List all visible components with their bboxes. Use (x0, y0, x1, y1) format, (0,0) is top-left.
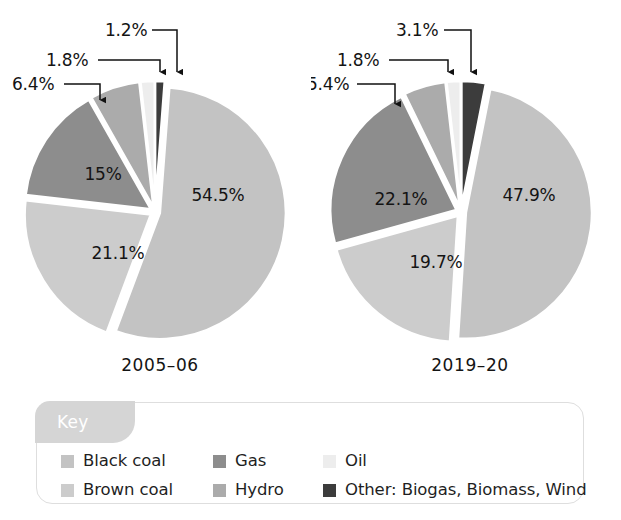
year-label-2019-20: 2019–20 (420, 355, 520, 375)
pie-svg-2005-06: 1.2%1.8%6.4% 54.5%21.1%15% (0, 0, 310, 350)
slice-label-brown-coal: 21.1% (91, 243, 144, 263)
slice-label-brown-coal: 19.7% (409, 252, 462, 272)
callout-leader-oil (98, 60, 160, 72)
legend-label-black-coal: Black coal (83, 453, 166, 470)
legend-title-label: Key (35, 412, 89, 432)
legend-title-tab: Key (35, 401, 135, 443)
callout-label-oil: 1.8% (46, 50, 88, 70)
legend-label-gas: Gas (235, 453, 266, 470)
legend-box: Key Black coal Gas Oil Brown coal (36, 402, 584, 504)
callout-label-oil: 1.8% (337, 50, 379, 70)
pie-slices-2005-06 (25, 81, 286, 339)
legend-swatch-other-icon (323, 484, 336, 497)
legend-label-hydro: Hydro (235, 482, 284, 499)
legend-label-other: Other: Biogas, Biomass, Wind (345, 482, 587, 499)
legend-swatch-gas-icon (213, 455, 226, 468)
callout-leader-hydro (357, 84, 395, 104)
legend-item-hydro[interactable]: Hydro (213, 482, 323, 499)
callout-label-other: 3.1% (396, 20, 438, 40)
year-label-2005-06: 2005–06 (110, 355, 210, 375)
pie-chart-2005-06: 1.2%1.8%6.4% 54.5%21.1%15% (0, 0, 310, 350)
legend-item-black-coal[interactable]: Black coal (61, 453, 213, 470)
legend-label-oil: Oil (345, 453, 367, 470)
legend-item-oil[interactable]: Oil (323, 453, 587, 470)
figure-canvas: 1.2%1.8%6.4% 54.5%21.1%15% 2005–06 3.1%1… (0, 0, 621, 520)
callout-label-other: 1.2% (105, 20, 147, 40)
legend-swatch-oil-icon (323, 455, 336, 468)
slice-label-black-coal: 47.9% (502, 185, 555, 205)
legend-item-brown-coal[interactable]: Brown coal (61, 482, 213, 499)
slice-label-gas: 15% (84, 164, 121, 184)
callout-label-hydro: 6.4% (12, 74, 54, 94)
slice-label-gas: 22.1% (374, 189, 427, 209)
pie-chart-2019-20: 3.1%1.8%5.4% 47.9%19.7%22.1% (311, 0, 621, 350)
callout-label-hydro: 5.4% (311, 74, 349, 94)
legend-label-brown-coal: Brown coal (83, 482, 173, 499)
callout-leader-oil (389, 60, 448, 72)
pie-svg-2019-20: 3.1%1.8%5.4% 47.9%19.7%22.1% (311, 0, 621, 350)
legend-swatch-brown-coal-icon (61, 484, 74, 497)
callout-leader-other (152, 30, 177, 72)
pie-slices-2019-20 (330, 81, 592, 342)
legend-swatch-hydro-icon (213, 484, 226, 497)
legend-item-other[interactable]: Other: Biogas, Biomass, Wind (323, 482, 587, 499)
legend-swatch-black-coal-icon (61, 455, 74, 468)
legend-item-gas[interactable]: Gas (213, 453, 323, 470)
slice-label-black-coal: 54.5% (191, 185, 244, 205)
legend-items-grid: Black coal Gas Oil Brown coal Hydro Ot (61, 447, 581, 505)
